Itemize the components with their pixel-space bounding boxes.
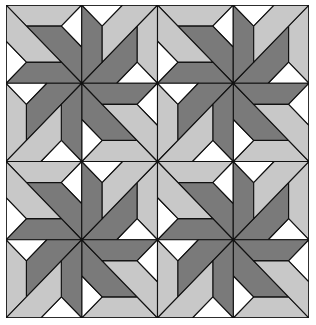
block-bottom-left — [6, 162, 158, 319]
block-bottom-right — [158, 162, 310, 319]
block-top-left — [6, 5, 158, 162]
quilt-pattern — [6, 5, 309, 318]
block-top-right — [158, 5, 310, 162]
